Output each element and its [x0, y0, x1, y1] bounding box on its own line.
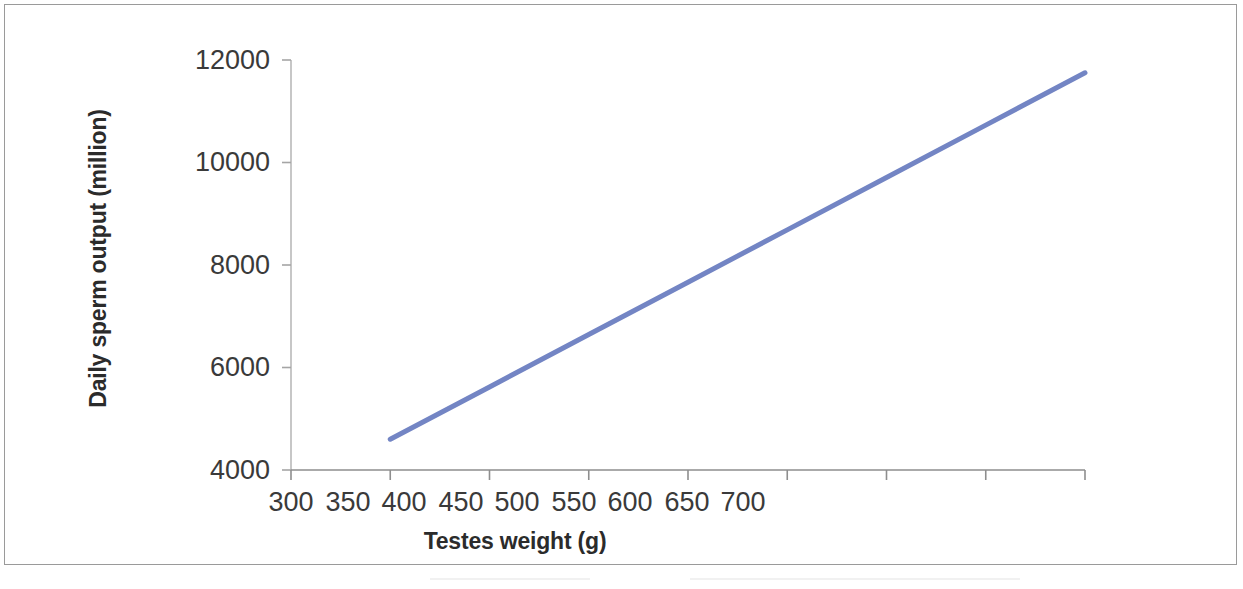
data-series-line: [390, 73, 1085, 439]
axis-lines: [291, 60, 1085, 470]
y-axis-ticks: [282, 60, 291, 470]
chart-area: Daily sperm output (million) Testes weig…: [0, 0, 1243, 589]
scan-bleed-artifact: [690, 578, 1020, 580]
scan-bleed-artifact: [430, 578, 590, 580]
x-axis-ticks: [291, 470, 1085, 480]
plot-svg: [0, 0, 1243, 589]
